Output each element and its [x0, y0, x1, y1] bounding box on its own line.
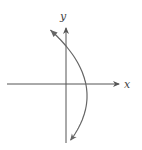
graph-figure: y x: [0, 0, 142, 150]
graph-canvas: y x: [0, 0, 142, 150]
x-axis-label: x: [124, 78, 131, 91]
y-axis-label: y: [59, 10, 67, 23]
parabola-curve: [50, 30, 87, 140]
